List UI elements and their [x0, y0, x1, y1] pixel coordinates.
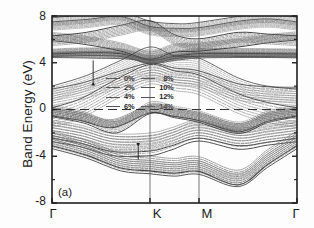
band-structure-plot: [0, 0, 314, 228]
band-structure-figure: Band Energy (eV) 8 4 0 -4 -8 Γ K M Γ (a)…: [0, 0, 314, 228]
